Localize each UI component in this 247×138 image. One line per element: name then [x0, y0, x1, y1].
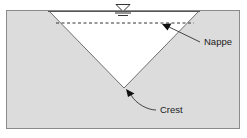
crest-label: Crest — [160, 104, 183, 115]
nappe-label: Nappe — [204, 36, 232, 47]
weir-diagram-figure: Nappe Crest — [0, 0, 247, 138]
diagram-canvas: Nappe Crest — [0, 0, 247, 138]
